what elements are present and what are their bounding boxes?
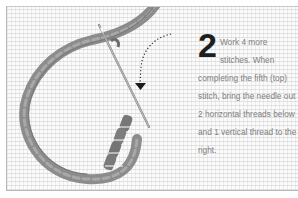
step-number: 2	[198, 32, 217, 56]
step-instruction: 2 Work 4 more stitches. When completing …	[198, 31, 294, 157]
needle-icon	[99, 25, 149, 127]
yarn-icon	[24, 7, 157, 179]
instruction-card: 2 Work 4 more stitches. When completing …	[6, 6, 294, 191]
dotted-arrow-icon	[135, 34, 171, 90]
